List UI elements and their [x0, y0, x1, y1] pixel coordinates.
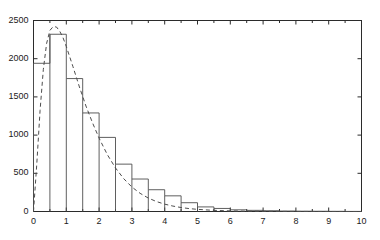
- y-tick-label: 1500: [0, 92, 29, 101]
- x-tick-label: 8: [282, 217, 310, 226]
- x-tick-label: 9: [315, 217, 343, 226]
- x-tick-label: 3: [118, 217, 146, 226]
- x-tick-label: 4: [151, 217, 179, 226]
- y-tick-label: 2000: [0, 54, 29, 63]
- y-tick-label: 0: [0, 207, 29, 216]
- x-tick-label: 6: [216, 217, 244, 226]
- x-tick-label: 10: [348, 217, 376, 226]
- x-tick-label: 7: [249, 217, 277, 226]
- y-tick-label: 500: [0, 168, 29, 177]
- x-tick-label: 5: [184, 217, 212, 226]
- chart-canvas: [0, 0, 380, 240]
- x-tick-label: 0: [20, 217, 48, 226]
- y-tick-label: 1000: [0, 130, 29, 139]
- x-tick-label: 2: [85, 217, 113, 226]
- x-tick-label: 1: [52, 217, 80, 226]
- histogram-figure: 05001000150020002500 012345678910: [0, 0, 380, 240]
- y-tick-label: 2500: [0, 16, 29, 25]
